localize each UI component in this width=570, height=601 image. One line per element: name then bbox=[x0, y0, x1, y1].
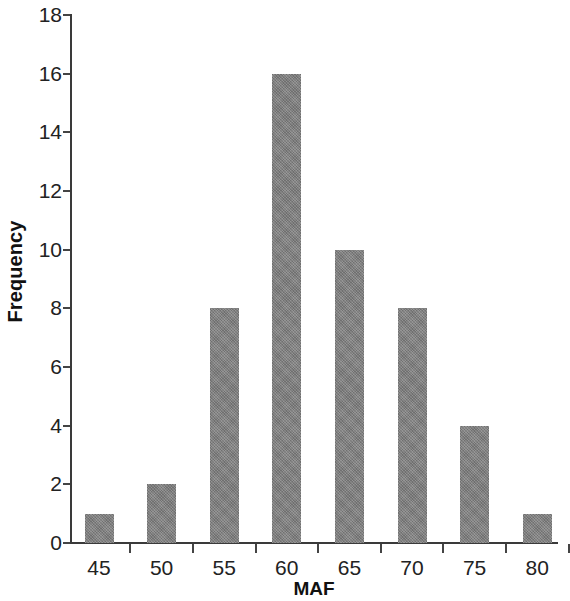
x-axis-label: MAF bbox=[70, 578, 558, 600]
x-axis-tick-mark bbox=[317, 544, 319, 553]
x-axis-tick-label: 60 bbox=[257, 556, 317, 580]
bar bbox=[272, 74, 301, 543]
x-axis-tick-mark bbox=[129, 544, 131, 553]
x-axis-tick-mark bbox=[442, 544, 444, 553]
bar bbox=[335, 250, 364, 543]
x-axis-tick-mark bbox=[505, 544, 507, 553]
x-axis-tick-label: 50 bbox=[132, 556, 192, 580]
x-axis-tick-mark bbox=[380, 544, 382, 553]
bar bbox=[147, 484, 176, 543]
bar bbox=[398, 308, 427, 543]
bar bbox=[210, 308, 239, 543]
x-axis-tick-label: 65 bbox=[319, 556, 379, 580]
bar bbox=[460, 426, 489, 543]
x-axis-tick-label: 75 bbox=[445, 556, 505, 580]
x-axis-tick-mark bbox=[192, 544, 194, 553]
x-axis-tick-label: 70 bbox=[382, 556, 442, 580]
bar bbox=[523, 514, 552, 543]
bar bbox=[85, 514, 114, 543]
x-axis-tick-label: 45 bbox=[69, 556, 129, 580]
x-axis-tick-label: 80 bbox=[507, 556, 567, 580]
x-axis-tick-label: 55 bbox=[194, 556, 254, 580]
x-axis-tick-mark bbox=[255, 544, 257, 553]
